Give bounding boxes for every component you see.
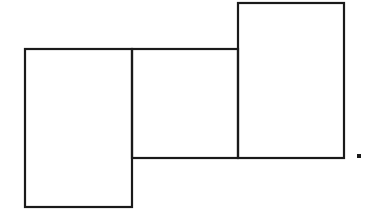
rectangles-diagram [0, 0, 372, 214]
left-rectangle [25, 49, 132, 207]
right-rectangle [238, 3, 344, 158]
middle-rectangle [132, 49, 238, 158]
period-dot [357, 154, 361, 158]
